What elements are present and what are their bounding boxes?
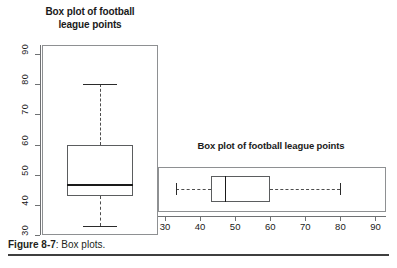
vertical-y-tick-label: 70: [20, 104, 34, 115]
horizontal-x-tick-label: 70: [293, 221, 317, 232]
horizontal-box-iqr: [211, 176, 271, 202]
vertical-y-tick: [35, 114, 40, 115]
horizontal-lower-whisker-cap: [176, 183, 177, 195]
vertical-upper-whisker-cap: [83, 84, 117, 85]
vertical-y-tick-label: 50: [20, 165, 34, 176]
horizontal-boxplot-series: [159, 168, 385, 211]
horizontal-x-tick-label: 90: [363, 221, 387, 232]
vertical-y-tick-label: 80: [20, 74, 34, 85]
horizontal-plot-panel: [158, 167, 386, 212]
figure-caption-text: : Box plots.: [56, 239, 105, 250]
vertical-median-line: [67, 184, 133, 186]
horizontal-x-axis-line: [158, 216, 386, 217]
vertical-chart-title-line1: Box plot of football: [45, 6, 134, 17]
vertical-y-axis-line: [40, 45, 41, 235]
figure-caption: Figure 8-7: Box plots.: [8, 239, 105, 250]
horizontal-lower-whisker-line: [176, 189, 211, 190]
vertical-y-tick-label: 40: [20, 195, 34, 206]
horizontal-upper-whisker-line: [270, 189, 340, 190]
horizontal-x-tick-label: 40: [188, 221, 212, 232]
vertical-y-tick-label: 30: [20, 225, 34, 236]
vertical-box-iqr: [67, 145, 133, 196]
vertical-plot-panel: [42, 45, 158, 235]
vertical-chart-title-line2: league points: [20, 19, 160, 32]
vertical-lower-whisker-line: [100, 196, 101, 226]
vertical-boxplot-figure: Box plot of football league points 30405…: [20, 6, 160, 234]
horizontal-boxplot-figure: Box plot of football league points 30405…: [155, 140, 387, 236]
vertical-lower-whisker-cap: [83, 226, 117, 227]
vertical-y-tick: [35, 145, 40, 146]
vertical-chart-title: Box plot of football league points: [20, 6, 160, 31]
caption-divider-rule: [8, 254, 389, 256]
vertical-y-tick: [35, 54, 40, 55]
horizontal-median-line: [225, 176, 226, 202]
vertical-y-tick-label: 90: [20, 44, 34, 55]
horizontal-x-tick-label: 50: [223, 221, 247, 232]
horizontal-upper-whisker-cap: [340, 183, 341, 195]
vertical-boxplot-series: [43, 46, 157, 234]
vertical-y-tick-label: 60: [20, 135, 34, 146]
vertical-y-tick: [35, 205, 40, 206]
vertical-y-tick: [35, 235, 40, 236]
vertical-y-tick: [35, 175, 40, 176]
horizontal-x-tick-label: 30: [153, 221, 177, 232]
vertical-y-tick: [35, 84, 40, 85]
horizontal-chart-title: Box plot of football league points: [155, 140, 387, 151]
horizontal-x-tick-label: 80: [328, 221, 352, 232]
horizontal-x-tick-label: 60: [258, 221, 282, 232]
vertical-upper-whisker-line: [100, 84, 101, 144]
figure-caption-label: Figure 8-7: [8, 239, 56, 250]
